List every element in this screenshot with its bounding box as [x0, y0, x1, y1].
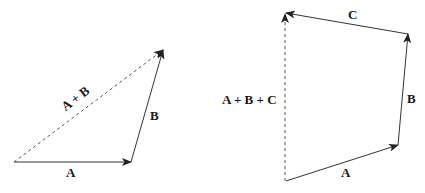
vector-b-arrow: [398, 34, 408, 145]
vector-c-arrow: [286, 13, 408, 34]
label-c: C: [348, 7, 357, 22]
label-a: A: [341, 165, 351, 180]
vector-b-arrow: [131, 50, 163, 162]
vector-addition-figure: A B A + B A B C A + B + C: [0, 0, 425, 193]
label-sum-ab: A + B: [58, 83, 92, 114]
label-b: B: [407, 91, 416, 106]
label-b: B: [150, 108, 159, 123]
right-diagram: A B C A + B + C: [222, 7, 416, 181]
vector-sum-ab-arrow: [14, 50, 163, 162]
left-diagram: A B A + B: [14, 50, 163, 180]
label-sum-abc: A + B + C: [222, 92, 277, 107]
label-a: A: [66, 165, 76, 180]
